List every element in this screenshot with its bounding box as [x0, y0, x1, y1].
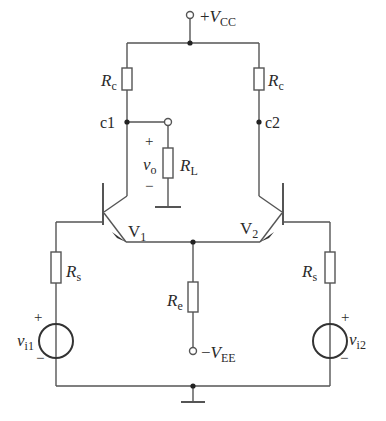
c1-label: c1 — [100, 114, 115, 131]
re-resistor — [188, 242, 198, 355]
vo-minus: − — [145, 178, 153, 194]
rs-left-resistor — [51, 222, 61, 386]
vo-label: vo — [143, 155, 157, 177]
rl-label: RL — [179, 156, 198, 178]
re-label: Re — [166, 291, 183, 313]
rc-right-label: Rc — [267, 71, 284, 93]
vi1-plus: + — [34, 309, 42, 325]
vi2-label: vi2 — [349, 330, 366, 352]
transistor-v2 — [193, 183, 330, 242]
vcc-terminal — [187, 12, 194, 44]
circuit-diagram: +VCC Rc Rc c1 c2 + vo − RL V1 V2 Rs Rs R… — [0, 0, 386, 421]
vi1-minus: − — [36, 350, 44, 366]
vcc-label: +VCC — [200, 7, 236, 29]
v2-label: V2 — [240, 219, 258, 241]
vi1-label: vi1 — [17, 331, 34, 353]
vo-plus: + — [145, 133, 153, 149]
rs-right-resistor — [325, 222, 335, 386]
rc-left-label: Rc — [100, 71, 117, 93]
transistor-v1 — [56, 183, 193, 242]
rs-left-label: Rs — [65, 262, 81, 284]
vi2-plus: + — [341, 309, 349, 325]
vee-label: −VEE — [201, 343, 236, 365]
c2-label: c2 — [265, 114, 280, 131]
vi2-minus: − — [340, 350, 348, 366]
rs-right-label: Rs — [301, 262, 317, 284]
v1-label: V1 — [128, 222, 146, 244]
